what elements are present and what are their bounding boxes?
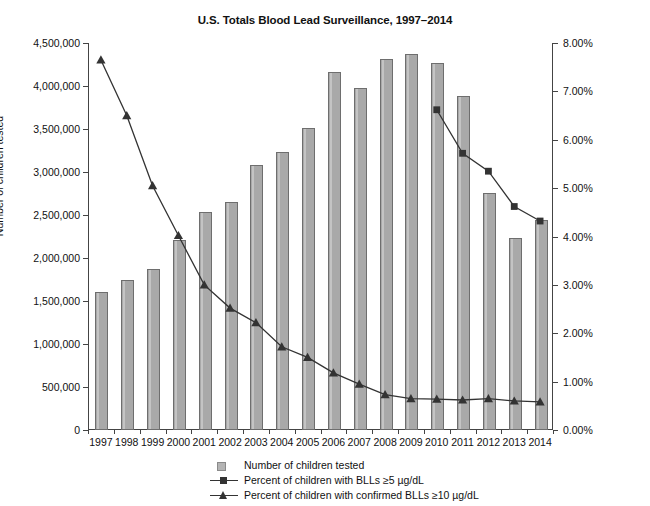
triangle-icon [219,491,227,499]
y-axis-right-tick-label: 4.00% [563,231,593,242]
y-axis-right-tick-mark [553,43,558,44]
x-axis-tick-mark [191,430,192,434]
y-axis-left-tick-label: 2,500,000 [0,210,80,221]
legend-label: Percent of children with confirmed BLLs … [244,490,479,501]
legend-line-triangle-icon [208,490,240,502]
y-axis-right-tick-label: 8.00% [563,38,593,49]
bar-2003 [250,165,263,430]
bar-2013 [509,238,522,430]
legend-line-square-icon [208,475,240,487]
chart-title: U.S. Totals Blood Lead Surveillance, 199… [0,14,650,26]
y-axis-left-tick-label: 3,000,000 [0,167,80,178]
legend-label: Percent of children with BLLs ≥5 µg/dL [244,475,424,486]
legend-item-1: Percent of children with BLLs ≥5 µg/dL [0,473,650,488]
x-axis-tick-mark [346,430,347,434]
bar-1999 [147,269,160,430]
bar-2006 [328,72,341,430]
bar-2002 [225,202,238,430]
square-icon [220,477,227,484]
y-axis-left-tick-label: 2,000,000 [0,253,80,264]
x-axis-tick-mark [398,430,399,434]
x-axis-tick-mark [140,430,141,434]
bar-2000 [173,240,186,430]
square-icon [217,462,226,471]
x-axis-tick-mark [553,430,554,434]
bar-2008 [380,59,393,430]
bar-2010 [431,63,444,430]
bar-2012 [483,193,496,430]
y-axis-left-tick-label: 1,500,000 [0,296,80,307]
x-axis-tick-mark [450,430,451,434]
bar-2001 [199,212,212,430]
x-axis-tick-mark [217,430,218,434]
bar-2004 [276,152,289,430]
chart-container: U.S. Totals Blood Lead Surveillance, 199… [0,0,650,506]
x-axis-tick-mark [527,430,528,434]
y-axis-right-tick-label: 2.00% [563,328,593,339]
plot-area [88,43,553,430]
y-axis-right-tick-mark [553,285,558,286]
x-axis-tick-mark [372,430,373,434]
y-axis-left-tick-label: 500,000 [0,382,80,393]
y-axis-right-tick-label: 6.00% [563,135,593,146]
y-axis-right-tick-label: 7.00% [563,86,593,97]
y-axis-right-tick-mark [553,140,558,141]
legend-swatch-icon [208,460,240,472]
bars-layer [89,43,552,429]
legend-label: Number of children tested [244,460,364,471]
y-axis-right-tick-label: 1.00% [563,376,593,387]
y-axis-right-tick-mark [553,237,558,238]
bar-2007 [354,88,367,430]
x-axis-tick-mark [269,430,270,434]
bar-2011 [457,96,470,430]
x-axis-tick-mark [321,430,322,434]
bar-1997 [95,292,108,430]
legend-item-0: Number of children tested [0,458,650,473]
y-axis-right-tick-label: 5.00% [563,183,593,194]
x-axis-tick-mark [114,430,115,434]
x-axis-tick-mark [476,430,477,434]
bar-2009 [405,54,418,430]
x-axis-tick-mark [88,430,89,434]
y-axis-right-tick-label: 0.00% [563,425,593,436]
y-axis-right-tick-mark [553,91,558,92]
bar-2005 [302,128,315,430]
y-axis-left-tick-label: 4,500,000 [0,38,80,49]
y-axis-right-tick-mark [553,382,558,383]
y-axis-right-tick-mark [553,188,558,189]
legend-item-2: Percent of children with confirmed BLLs … [0,488,650,503]
y-axis-right-tick-label: 3.00% [563,280,593,291]
x-axis-tick-mark [166,430,167,434]
x-axis-tick-mark [243,430,244,434]
bar-1998 [121,280,134,430]
y-axis-left-tick-label: 1,000,000 [0,339,80,350]
y-axis-left-tick-label: 0 [0,425,80,436]
y-axis-right-tick-mark [553,333,558,334]
bar-2014 [535,220,548,430]
chart-legend: Number of children testedPercent of chil… [0,458,650,503]
y-axis-left-tick-label: 4,000,000 [0,81,80,92]
x-axis-tick-mark [501,430,502,434]
x-axis-tick-label: 2014 [520,436,560,448]
y-axis-left-tick-label: 3,500,000 [0,124,80,135]
x-axis-tick-mark [295,430,296,434]
x-axis-tick-mark [424,430,425,434]
